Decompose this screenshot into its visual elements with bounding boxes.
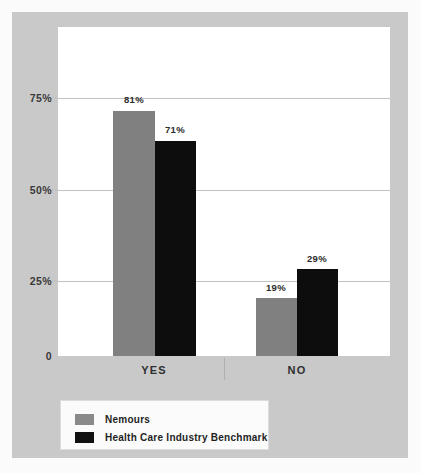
- legend-label-nemours: Nemours: [105, 414, 150, 425]
- y-axis-tick-label-0: 0: [46, 350, 52, 362]
- plot-area: 81% 71% 19% 29%: [58, 27, 390, 356]
- chart-figure: 75% 50% 25% 0 81% 71% 19% 29% YES NO Nem: [12, 12, 408, 458]
- x-axis-tick-label-yes: YES: [141, 364, 167, 376]
- bar-yes-nemours[interactable]: [113, 111, 155, 356]
- bar-label-no-benchmark: 29%: [307, 253, 327, 264]
- bar-label-no-nemours: 19%: [266, 282, 286, 293]
- legend-swatch-nemours: [75, 414, 94, 425]
- bar-label-yes-benchmark: 71%: [165, 124, 185, 135]
- bar-no-nemours[interactable]: [256, 298, 297, 356]
- gridline-50: [58, 190, 390, 191]
- legend-swatch-benchmark: [75, 432, 94, 443]
- bar-label-yes-nemours: 81%: [124, 94, 144, 105]
- legend-item-benchmark[interactable]: Health Care Industry Benchmark: [75, 430, 268, 444]
- legend-label-benchmark: Health Care Industry Benchmark: [105, 432, 268, 443]
- bar-no-benchmark[interactable]: [297, 269, 338, 356]
- chart-legend: Nemours Health Care Industry Benchmark: [60, 400, 269, 450]
- legend-item-nemours[interactable]: Nemours: [75, 412, 150, 426]
- x-axis: YES NO: [58, 356, 390, 382]
- y-axis-tick-label-75: 75%: [30, 92, 52, 104]
- bar-yes-benchmark[interactable]: [155, 141, 196, 356]
- y-axis: 75% 50% 25% 0: [12, 27, 52, 356]
- x-axis-group-divider: [224, 358, 225, 380]
- y-axis-tick-label-25: 25%: [30, 275, 52, 287]
- gridline-25: [58, 281, 390, 282]
- gridline-75: [58, 98, 390, 99]
- y-axis-tick-label-50: 50%: [30, 184, 52, 196]
- x-axis-tick-label-no: NO: [288, 364, 307, 376]
